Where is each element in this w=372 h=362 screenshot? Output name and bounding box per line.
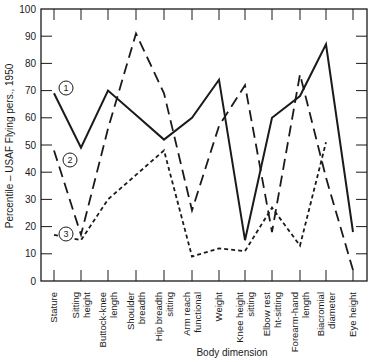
x-category-label: functional [192, 292, 203, 333]
x-category-label: Arm reach [181, 292, 192, 336]
x-category-label: height [81, 292, 92, 318]
series-marker-1: 1 [59, 81, 73, 95]
x-category-label: length [300, 292, 311, 318]
x-category-label: Sitting [70, 292, 81, 318]
y-tick-label: 30 [25, 194, 37, 205]
chart-series [54, 34, 353, 271]
x-category-label: length [108, 292, 119, 318]
y-tick-label: 50 [25, 140, 37, 151]
chart-axes: 0102030405060708090100 [19, 4, 367, 287]
x-category-label: Forearm-hand [289, 292, 300, 352]
x-category-label: Shoulder [125, 292, 136, 330]
x-category-label: Eye height [347, 292, 358, 337]
x-category-label: diameter [326, 292, 337, 329]
marker-label: 3 [63, 229, 68, 239]
x-category-label: Stature [48, 292, 59, 323]
y-tick-label: 90 [25, 31, 37, 42]
x-category-label: ht-sitting [272, 292, 283, 328]
x-axis-title: Body dimension [196, 347, 267, 358]
y-tick-label: 70 [25, 85, 37, 96]
y-tick-label: 80 [25, 58, 37, 69]
y-axis-title: Percentile – USAF Flying pers., 1950 [4, 63, 15, 228]
x-category-label: Knee height [234, 292, 245, 343]
x-category-label: Hip breadth [153, 292, 164, 341]
series-marker-3: 3 [59, 227, 73, 241]
series-line-2 [54, 34, 353, 271]
x-category-label: Buttock-knee [97, 292, 108, 347]
x-category-label: Biacromial [315, 292, 326, 336]
y-tick-label: 10 [25, 248, 37, 259]
y-tick-label: 40 [25, 167, 37, 178]
x-category-label: Elbow rest [261, 292, 272, 337]
series-markers: 123 [59, 81, 77, 241]
y-tick-label: 0 [30, 276, 36, 287]
x-category-label: Weight [213, 292, 224, 322]
y-tick-label: 20 [25, 221, 37, 232]
y-tick-label: 60 [25, 112, 37, 123]
line-chart: 0102030405060708090100 123 StatureSittin… [0, 0, 372, 362]
x-category-label: breadth [136, 292, 147, 324]
series-marker-2: 2 [63, 153, 77, 167]
y-tick-label: 100 [19, 4, 36, 15]
marker-label: 2 [67, 155, 72, 165]
plot-frame [41, 9, 367, 281]
x-category-labels: StatureSittingheightButtock-kneelengthSh… [48, 292, 358, 353]
x-category-label: sitting [245, 292, 256, 317]
x-category-label: sitting [164, 292, 175, 317]
marker-label: 1 [63, 83, 68, 93]
